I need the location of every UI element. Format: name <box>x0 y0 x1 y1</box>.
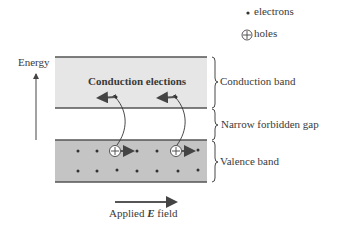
field-label-prefix: Applied <box>109 207 147 219</box>
forbidden-gap-label: Narrow forbidden gap <box>221 118 319 130</box>
energy-axis-label: Energy <box>18 56 50 68</box>
electron-drift-arrow-1 <box>98 97 116 98</box>
legend-electrons-label: electrons <box>254 5 294 17</box>
applied-field-label: Applied E field <box>109 207 177 219</box>
conduction-electrons-label: Conduction elections <box>88 75 186 87</box>
field-label-suffix: field <box>155 207 178 219</box>
conduction-band-label: Conduction band <box>220 75 295 87</box>
electron-drift-arrow-2 <box>158 97 176 98</box>
legend-holes-label: holes <box>254 27 277 39</box>
hole-icon <box>110 146 121 157</box>
valence-band-label: Valence band <box>220 155 279 167</box>
valence-band <box>55 140 207 182</box>
field-symbol: E <box>147 207 154 219</box>
hole-icon <box>171 146 182 157</box>
electron-legend-icon <box>246 11 249 14</box>
band-diagram <box>0 0 337 231</box>
hole-legend-icon <box>242 30 252 40</box>
brace-icon <box>212 57 218 182</box>
